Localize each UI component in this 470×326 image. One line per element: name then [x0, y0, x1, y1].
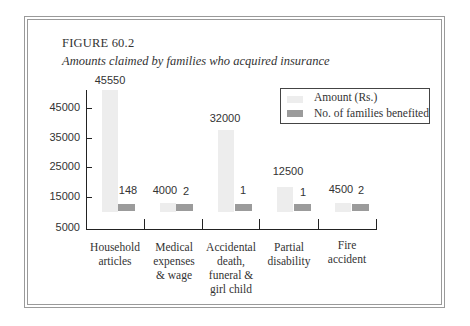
y-tick-label: 5000 [36, 221, 80, 233]
bar-amount-accidental [218, 130, 234, 212]
x-axis-line [86, 229, 377, 230]
bar-families-household [118, 204, 135, 211]
x-category-divider [202, 219, 203, 229]
y-tick-label: 15000 [36, 190, 80, 202]
bar-amount-medical [160, 203, 176, 212]
category-label-line: expenses [142, 254, 206, 268]
figure-title: Amounts claimed by families who acquired… [62, 54, 330, 69]
legend-swatch-amount [287, 96, 303, 103]
category-label-medical: Medical expenses & wage [142, 240, 206, 282]
families-value-label: 2 [180, 185, 192, 197]
amount-value-label: 4000 [150, 184, 180, 196]
category-label-line: death, [199, 254, 263, 268]
x-category-divider [318, 219, 319, 229]
x-category-divider [144, 219, 145, 229]
category-label-line: accident [315, 252, 379, 266]
x-category-divider [259, 219, 260, 229]
amount-value-label: 32000 [200, 112, 250, 124]
legend-label-amount: Amount (Rs.) [314, 91, 377, 103]
legend-label-families: No. of families benefited [314, 107, 429, 119]
category-label-line: articles [83, 254, 147, 268]
y-tick-label: 25000 [36, 160, 80, 172]
category-label-line: disability [257, 254, 321, 268]
bar-families-partial [294, 204, 311, 211]
bar-families-accidental [235, 204, 252, 211]
y-tick [86, 167, 92, 168]
y-tick-label: 35000 [36, 131, 80, 143]
bar-amount-partial [277, 187, 293, 212]
category-label-line: Household [83, 240, 147, 254]
y-axis-line [86, 90, 87, 230]
category-label-line: Fire [315, 238, 379, 252]
chart-legend: Amount (Rs.) No. of families benefited [280, 88, 430, 124]
bar-amount-fire [335, 203, 351, 212]
category-label-partial: Partial disability [257, 240, 321, 268]
families-value-label: 2 [355, 184, 367, 196]
x-category-divider [376, 219, 377, 229]
amount-value-label: 4500 [326, 183, 356, 195]
category-label-line: Partial [257, 240, 321, 254]
bar-families-medical [176, 204, 193, 211]
category-label-line: & wage [142, 268, 206, 282]
category-label-line: girl child [199, 282, 263, 296]
category-label-line: Medical [142, 240, 206, 254]
category-label-fire: Fire accident [315, 238, 379, 266]
bar-families-fire [352, 204, 369, 211]
families-value-label: 1 [237, 184, 249, 196]
families-value-label: 1 [297, 186, 309, 198]
category-label-household: Household articles [83, 240, 147, 268]
y-tick [86, 138, 92, 139]
y-tick [86, 108, 92, 109]
figure-label: FIGURE 60.2 [62, 36, 134, 51]
category-label-accidental: Accidental death, funeral & girl child [199, 240, 263, 296]
legend-swatch-families [287, 110, 303, 117]
category-label-line: funeral & [199, 268, 263, 282]
category-label-line: Accidental [199, 240, 263, 254]
amount-value-label: 45550 [85, 74, 135, 86]
y-tick [86, 197, 92, 198]
y-tick-label: 45000 [36, 101, 80, 113]
amount-value-label: 12500 [268, 165, 308, 177]
families-value-label: 148 [115, 184, 141, 196]
